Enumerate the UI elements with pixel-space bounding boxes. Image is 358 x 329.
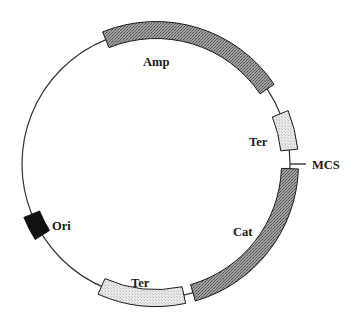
label-mcs: MCS xyxy=(312,158,340,172)
plasmid-map: Amp Ter Cat Ter Ori MCS xyxy=(0,0,358,329)
feature-block-ter-1 xyxy=(272,111,297,151)
label-amp: Amp xyxy=(143,55,169,69)
label-ori: Ori xyxy=(52,219,71,233)
label-cat: Cat xyxy=(233,225,253,239)
label-ter-2: Ter xyxy=(131,276,150,290)
feature-block-ori xyxy=(24,211,50,240)
label-ter-1: Ter xyxy=(249,135,268,149)
feature-block-amp xyxy=(103,22,275,94)
